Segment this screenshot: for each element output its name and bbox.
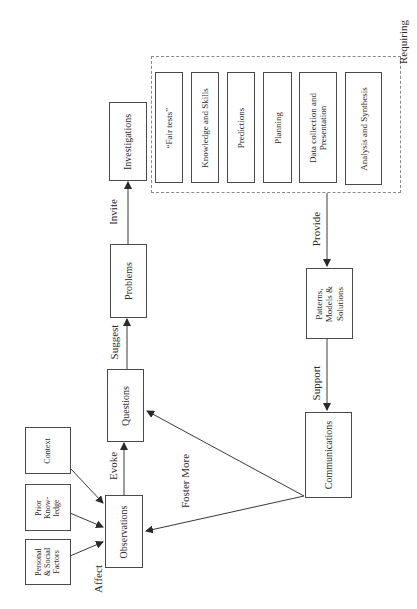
node-context: Context (25, 427, 71, 474)
node-context-label: Context (43, 438, 52, 463)
edge-label-provide: Provide (310, 209, 322, 249)
node-observations-label: Observations (118, 505, 130, 558)
node-prior-knowledge: Prior Know- ledge (25, 484, 71, 531)
requiring-item-label: Planning (272, 111, 282, 143)
group-label-requiring: Requiring (397, 17, 409, 67)
node-personal-social: Personal & Social Factors (25, 539, 71, 585)
node-prior-knowledge-label: Prior Know- ledge (34, 496, 62, 518)
requiring-item-predictions: Predictions (227, 72, 255, 183)
arrow-communications-to-questions (147, 411, 304, 496)
arrow-context-to-observations (70, 468, 103, 503)
requiring-item-label: Knowledge and Skills (200, 88, 210, 168)
arrow-communications-to-observations (146, 496, 304, 531)
node-observations: Observations (105, 495, 143, 568)
requiring-item-analysis-synthesis: Analysis and Synthesis (345, 72, 382, 185)
node-questions-label: Questions (120, 386, 132, 426)
node-communications: Communications (305, 412, 352, 498)
node-investigations-label: Investigations (122, 113, 134, 169)
requiring-item-knowledge-skills: Knowledge and Skills (191, 72, 219, 183)
requiring-item-label: Predictions (236, 107, 246, 148)
arrow-personal-to-observations (70, 542, 103, 556)
edge-label-affect: Affect (92, 561, 104, 597)
requiring-item-data-collection: Data collection and Presentation (299, 72, 337, 183)
edge-label-evoke: Evoke (107, 448, 119, 484)
edge-label-suggest: Suggest (108, 322, 120, 362)
node-investigations: Investigations (109, 102, 147, 181)
node-questions: Questions (107, 369, 144, 442)
edge-label-foster-more: Foster More (179, 451, 191, 511)
requiring-item-label: Analysis and Synthesis (358, 87, 368, 171)
node-problems-label: Problems (123, 262, 135, 300)
node-patterns-label: Patterns, Models & Solutions (314, 285, 345, 321)
edge-label-support: Support (310, 363, 322, 403)
edge-label-invite: Invite (107, 197, 119, 227)
requiring-item-planning: Planning (263, 72, 292, 183)
requiring-item-fair-tests: “Fair tests” (155, 72, 183, 183)
arrow-prior-to-observations (70, 513, 103, 527)
requiring-item-label: “Fair tests” (164, 107, 174, 148)
node-personal-social-label: Personal & Social Factors (34, 548, 62, 576)
node-communications-label: Communications (323, 421, 335, 489)
requiring-item-label: Data collection and Presentation (308, 93, 329, 163)
node-patterns-models-solutions: Patterns, Models & Solutions (306, 268, 353, 339)
node-problems: Problems (110, 244, 147, 318)
